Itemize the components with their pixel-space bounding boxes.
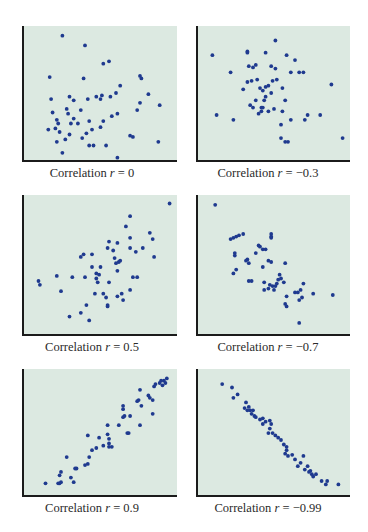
chart-caption: Correlation r = −0.99: [176, 501, 360, 516]
data-point: [87, 455, 91, 459]
data-point: [264, 247, 268, 251]
data-point: [107, 442, 111, 446]
data-point: [61, 151, 65, 155]
data-point: [116, 269, 120, 273]
data-point: [79, 311, 83, 315]
data-point: [285, 448, 289, 452]
data-point: [274, 39, 278, 43]
data-point: [320, 479, 324, 483]
data-point: [121, 404, 125, 408]
data-point: [279, 136, 283, 140]
data-point: [285, 294, 289, 298]
data-point: [211, 53, 215, 57]
panel-r-0-9: Correlation r = 0.9: [0, 357, 184, 532]
data-point: [106, 432, 110, 436]
data-point: [99, 97, 103, 101]
data-point: [72, 117, 76, 121]
data-point: [278, 273, 282, 277]
data-point: [254, 63, 258, 67]
data-point: [275, 78, 279, 82]
data-point: [107, 59, 111, 63]
data-point: [90, 265, 94, 269]
data-point: [101, 62, 105, 66]
data-point: [296, 464, 300, 468]
data-point: [107, 240, 111, 244]
data-point: [281, 86, 285, 90]
data-point: [83, 44, 87, 48]
data-point: [156, 140, 160, 144]
chart-caption: Correlation r = −0.3: [176, 166, 360, 181]
data-point: [90, 252, 94, 256]
data-point: [121, 298, 125, 302]
data-point: [281, 109, 285, 113]
data-point: [87, 144, 91, 148]
data-point: [161, 383, 165, 387]
data-point: [257, 112, 261, 116]
data-point: [261, 106, 265, 110]
data-point: [96, 280, 100, 284]
data-point: [83, 463, 87, 467]
data-point: [285, 305, 289, 309]
data-point: [293, 458, 297, 462]
chart-caption: Correlation r = 0: [0, 166, 184, 181]
data-point: [101, 119, 105, 123]
data-point: [330, 83, 334, 87]
data-point: [87, 119, 91, 123]
data-point: [331, 293, 335, 297]
scatter-plot: [196, 369, 350, 497]
data-point: [55, 118, 59, 122]
data-point: [271, 79, 275, 83]
data-point: [68, 133, 72, 137]
data-point: [297, 70, 301, 74]
data-point: [248, 103, 252, 107]
panel-r-0-5: Correlation r = 0.5: [0, 182, 184, 357]
data-point: [82, 77, 86, 81]
data-point: [318, 113, 322, 117]
data-point: [230, 386, 234, 390]
data-point: [306, 113, 310, 117]
data-point: [110, 114, 114, 118]
data-point: [99, 265, 103, 269]
data-point: [37, 279, 41, 283]
data-point: [106, 246, 110, 250]
data-point: [135, 275, 139, 279]
data-point: [272, 288, 276, 292]
data-point: [38, 283, 42, 287]
data-point: [107, 437, 111, 441]
data-point: [117, 423, 121, 427]
data-point: [135, 108, 139, 112]
data-point: [261, 89, 265, 93]
data-point: [138, 101, 142, 105]
data-point: [303, 468, 307, 472]
data-point: [232, 272, 236, 276]
data-point: [274, 67, 278, 71]
data-point: [269, 260, 273, 264]
data-point: [59, 480, 63, 484]
data-point: [241, 87, 245, 91]
data-point: [73, 467, 77, 471]
data-point: [44, 481, 48, 485]
scatter-plot: [196, 26, 350, 162]
data-point: [254, 415, 258, 419]
scatter-plot: [22, 26, 177, 162]
data-point: [128, 246, 132, 250]
data-point: [341, 136, 345, 140]
data-point: [59, 470, 63, 474]
data-point: [107, 280, 111, 284]
data-point: [114, 261, 118, 265]
chart-caption: Correlation r = −0.7: [176, 340, 360, 355]
panel-r-0: Correlation r = 0: [0, 0, 184, 182]
data-point: [151, 412, 155, 416]
data-point: [148, 231, 152, 235]
panel-r-neg-0-3: Correlation r = −0.3: [184, 0, 368, 182]
data-point: [254, 98, 258, 102]
data-point: [69, 122, 73, 126]
data-point: [111, 249, 115, 253]
data-point: [247, 405, 251, 409]
data-point: [246, 80, 250, 84]
data-point: [152, 385, 156, 389]
data-point: [127, 431, 131, 435]
data-point: [234, 268, 238, 272]
data-point: [289, 118, 293, 122]
data-point: [293, 58, 297, 62]
